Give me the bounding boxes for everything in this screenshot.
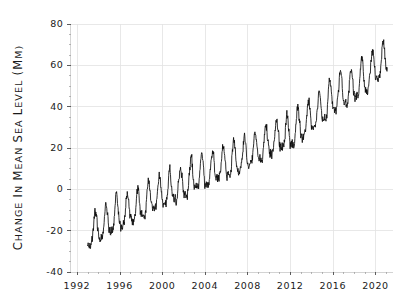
y-tick-label: 20 <box>50 142 63 153</box>
x-tick-label: 2012 <box>277 280 304 291</box>
x-tick-label: 1992 <box>64 280 91 291</box>
sea-level-chart: -40-20020406080 199219962000200420082012… <box>0 0 410 305</box>
y-tick-label: -20 <box>46 225 63 236</box>
x-tick-label: 1996 <box>106 280 133 291</box>
x-tick-label: 2004 <box>192 280 219 291</box>
y-tick-label: -40 <box>46 266 63 277</box>
y-axis-title: CHANGE IN MEAN SEA LEVEL (MM) <box>11 45 25 251</box>
y-tick-label: 60 <box>50 59 63 70</box>
x-tick-label: 2016 <box>320 280 347 291</box>
y-tick-label: 0 <box>57 183 64 194</box>
x-tick-label: 2020 <box>362 280 389 291</box>
y-tick-label: 80 <box>50 18 63 29</box>
y-axis-title-text: CHANGE IN MEAN SEA LEVEL (MM) <box>11 45 25 251</box>
x-tick-label: 2000 <box>149 280 176 291</box>
y-tick-label: 40 <box>50 101 63 112</box>
chart-canvas: -40-20020406080 199219962000200420082012… <box>0 0 410 305</box>
x-tick-label: 2008 <box>234 280 261 291</box>
